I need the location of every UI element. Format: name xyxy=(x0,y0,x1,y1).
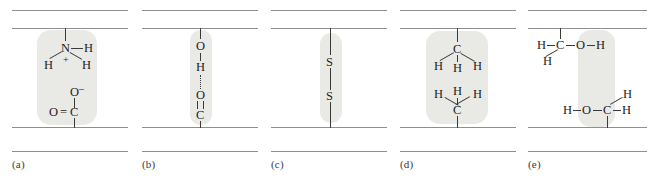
atom-hydrogen-lower-left: H xyxy=(434,88,443,100)
charge-positive: + xyxy=(63,55,69,64)
panel-b-label: (b) xyxy=(142,158,155,170)
interaction-highlight xyxy=(320,33,342,123)
backbone-line-bottom-outer xyxy=(271,151,387,152)
backbone-line-bottom-outer xyxy=(12,151,128,152)
charge-negative: – xyxy=(79,84,84,93)
bond-o-h-top xyxy=(587,45,595,46)
backbone-line-bottom-inner xyxy=(528,127,647,128)
bond-c-upper-to-backbone xyxy=(457,28,458,42)
atom-hydrogen-top-right: H xyxy=(596,39,605,51)
bond-o-to-backbone xyxy=(200,28,201,39)
backbone-line-top-inner xyxy=(528,28,647,29)
backbone-line-bottom-outer xyxy=(528,151,647,152)
atom-sulfur-upper: S xyxy=(326,56,333,68)
backbone-line-top-outer xyxy=(528,10,647,11)
atom-hydrogen-top-below: H xyxy=(543,55,552,67)
backbone-line-top-inner xyxy=(12,28,128,29)
atom-hydrogen: H xyxy=(196,61,205,73)
backbone-line-bottom-outer xyxy=(400,151,516,152)
bond-c-to-backbone xyxy=(74,118,75,128)
protein-interactions-figure: N H + H H O – O = C (a) O H O xyxy=(0,0,657,179)
atom-carbon-bottom: C xyxy=(603,104,611,116)
backbone-line-top-outer xyxy=(400,10,516,11)
hydrogen-bond-dotted-line xyxy=(200,75,201,89)
atom-oxygen-bottom: O xyxy=(582,104,591,116)
atom-hydrogen-lower-mid: H xyxy=(453,85,462,97)
backbone-line-bottom-inner xyxy=(271,127,387,128)
atom-carbon: C xyxy=(70,106,78,118)
bond-h-o-bottom xyxy=(573,110,581,111)
bond-c-o-top xyxy=(566,45,575,46)
panel-a-label: (a) xyxy=(12,158,25,170)
atom-hydrogen-left: H xyxy=(44,59,53,71)
backbone-line-bottom-outer xyxy=(142,151,258,152)
bond-c-h-bottom-right xyxy=(613,110,621,111)
backbone-line-bottom-inner xyxy=(400,127,516,128)
bond-disulfide xyxy=(330,68,331,90)
atom-hydrogen-top-left: H xyxy=(537,39,546,51)
bond-o-c-bottom xyxy=(593,110,602,111)
bond-c-bottom-to-backbone xyxy=(607,116,608,128)
atom-hydrogen-lower-right: H xyxy=(473,88,482,100)
atom-hydrogen-right: H xyxy=(84,42,93,54)
atom-hydrogen-upper-left: H xyxy=(434,60,443,72)
atom-carbon: C xyxy=(196,109,204,121)
atom-hydrogen-bottom-above: H xyxy=(623,88,632,100)
bond-c-to-backbone xyxy=(200,121,201,128)
atom-oxygen-double: O xyxy=(49,106,58,118)
bond-c-lower-to-backbone xyxy=(457,116,458,128)
atom-oxygen-acceptor: O xyxy=(196,89,205,101)
atom-hydrogen-lower: H xyxy=(82,59,91,71)
panel-c-disulfide-bond: S S (c) xyxy=(267,0,397,179)
backbone-line-top-outer xyxy=(271,10,387,11)
bond-n-to-backbone xyxy=(65,28,66,41)
panel-d-label: (d) xyxy=(400,158,413,170)
panel-c-label: (c) xyxy=(271,158,284,170)
panel-a-ionic-bond: N H + H H O – O = C (a) xyxy=(8,0,138,179)
atom-oxygen-top: O xyxy=(576,39,585,51)
backbone-line-bottom-inner xyxy=(12,127,128,128)
atom-hydrogen-upper-mid: H xyxy=(453,62,462,74)
panel-d-hydrophobic-interaction: C H H H H H H C (d) xyxy=(396,0,526,179)
panel-e-label: (e) xyxy=(528,158,541,170)
atom-oxygen-donor: O xyxy=(196,40,205,52)
bond-h-c-top xyxy=(547,45,555,46)
atom-hydrogen-bottom-left: H xyxy=(563,104,572,116)
backbone-line-top-inner xyxy=(400,28,516,29)
bond-n-h-right xyxy=(71,48,83,49)
atom-hydrogen-bottom-right: H xyxy=(622,104,631,116)
atom-carbon-lower: C xyxy=(453,104,461,116)
backbone-line-top-outer xyxy=(142,10,258,11)
bond-backbone-to-sulfur-upper xyxy=(330,28,331,55)
backbone-line-top-inner xyxy=(271,28,387,29)
panel-e-hydroxyl-interaction: H C O H H H O C H H (e) xyxy=(524,0,657,179)
bond-sulfur-lower-to-backbone xyxy=(330,102,331,128)
atom-hydrogen-upper-right: H xyxy=(473,60,482,72)
panel-b-hydrogen-bond: O H O C (b) xyxy=(138,0,268,179)
symbol-double-bond: = xyxy=(60,106,67,118)
atom-sulfur-lower: S xyxy=(326,90,333,102)
atom-oxygen-anion: O xyxy=(70,86,79,98)
backbone-line-top-outer xyxy=(12,10,128,11)
